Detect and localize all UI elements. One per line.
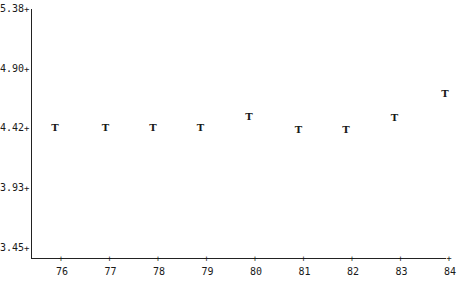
x-axis-line	[31, 258, 446, 259]
x-tick-mark: +	[203, 254, 211, 263]
x-tick-mark: +	[251, 254, 259, 263]
x-tick-mark: +	[445, 254, 453, 263]
data-point-marker: T	[244, 112, 254, 122]
x-tick-label: 84	[440, 266, 460, 277]
x-tick-mark: +	[348, 254, 356, 263]
x-tick-mark: +	[397, 254, 405, 263]
y-tick-label: 4.42+	[0, 123, 30, 133]
x-tick-mark: +	[57, 254, 65, 263]
data-point-marker: T	[390, 113, 400, 123]
data-point-marker: T	[196, 123, 206, 133]
y-tick-label: 3.45+	[0, 243, 30, 253]
x-tick-mark: +	[154, 254, 162, 263]
y-axis-line	[31, 9, 32, 258]
data-point-marker: T	[440, 89, 450, 99]
x-tick-label: 83	[392, 266, 412, 277]
data-point-marker: T	[148, 123, 158, 133]
y-tick-label: 3.93+	[0, 183, 30, 193]
x-tick-label: 81	[295, 266, 315, 277]
x-tick-mark: +	[106, 254, 114, 263]
x-tick-label: 80	[246, 266, 266, 277]
y-tick-label: 5.38+	[0, 4, 30, 14]
data-point-marker: T	[341, 125, 351, 135]
data-point-marker: T	[50, 123, 60, 133]
y-tick-label: 4.90+	[0, 64, 30, 74]
x-tick-label: 78	[149, 266, 169, 277]
x-tick-label: 76	[52, 266, 72, 277]
x-tick-label: 77	[101, 266, 121, 277]
data-point-marker: T	[101, 123, 111, 133]
data-point-marker: T	[294, 125, 304, 135]
x-tick-label: 82	[343, 266, 363, 277]
x-tick-label: 79	[198, 266, 218, 277]
x-tick-mark: +	[300, 254, 308, 263]
